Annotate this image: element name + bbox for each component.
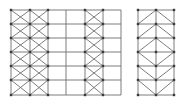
brace xyxy=(138,52,156,66)
joint-node xyxy=(47,65,49,67)
joint-node xyxy=(102,79,104,81)
joint-node xyxy=(102,51,104,53)
joint-node xyxy=(84,65,86,67)
joint-node xyxy=(84,79,86,81)
brace xyxy=(156,10,174,24)
bracing-diagram xyxy=(0,0,178,99)
brace xyxy=(138,38,156,52)
joint-node xyxy=(137,23,139,25)
joint-node xyxy=(137,9,139,11)
joint-node xyxy=(173,94,175,96)
joint-node xyxy=(29,51,31,53)
right-frame xyxy=(137,9,175,96)
joint-node xyxy=(173,79,175,81)
joint-node xyxy=(29,37,31,39)
joint-node xyxy=(29,9,31,11)
joint-node xyxy=(47,79,49,81)
brace xyxy=(156,52,174,66)
brace xyxy=(156,80,174,95)
joint-node xyxy=(155,79,157,81)
brace xyxy=(156,38,174,52)
joint-node xyxy=(47,51,49,53)
joint-node xyxy=(47,37,49,39)
joint-node xyxy=(137,94,139,96)
joint-node xyxy=(137,37,139,39)
joint-node xyxy=(173,51,175,53)
joint-node xyxy=(84,23,86,25)
joint-node xyxy=(102,23,104,25)
joint-node xyxy=(10,79,12,81)
joint-node xyxy=(173,65,175,67)
joint-node xyxy=(137,51,139,53)
joint-node xyxy=(84,94,86,96)
joint-node xyxy=(102,94,104,96)
joint-node xyxy=(47,94,49,96)
joint-node xyxy=(155,37,157,39)
joint-node xyxy=(29,65,31,67)
joint-node xyxy=(47,23,49,25)
joint-node xyxy=(84,37,86,39)
joint-node xyxy=(155,9,157,11)
joint-node xyxy=(10,23,12,25)
joint-node xyxy=(155,94,157,96)
joint-node xyxy=(137,79,139,81)
joint-node xyxy=(10,65,12,67)
joint-node xyxy=(102,65,104,67)
joint-node xyxy=(10,37,12,39)
joint-node xyxy=(47,9,49,11)
brace xyxy=(138,10,156,24)
joint-node xyxy=(84,51,86,53)
joint-node xyxy=(29,94,31,96)
joint-node xyxy=(29,79,31,81)
brace xyxy=(138,66,156,80)
joint-node xyxy=(10,51,12,53)
joint-node xyxy=(10,94,12,96)
left-frame xyxy=(10,9,121,96)
joint-node xyxy=(137,65,139,67)
brace xyxy=(156,24,174,38)
joint-node xyxy=(84,9,86,11)
brace xyxy=(138,24,156,38)
joint-node xyxy=(155,51,157,53)
joint-node xyxy=(102,9,104,11)
joint-node xyxy=(173,37,175,39)
joint-node xyxy=(173,9,175,11)
joint-node xyxy=(155,65,157,67)
joint-node xyxy=(10,9,12,11)
joint-node xyxy=(173,23,175,25)
brace xyxy=(156,66,174,80)
joint-node xyxy=(29,23,31,25)
brace xyxy=(138,80,156,95)
joint-node xyxy=(155,23,157,25)
joint-node xyxy=(102,37,104,39)
